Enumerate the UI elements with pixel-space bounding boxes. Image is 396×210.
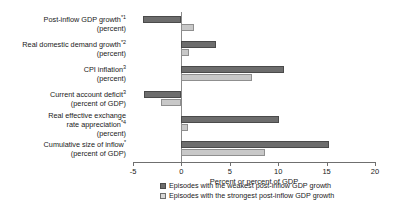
x-tick-label-5: 5	[228, 167, 232, 176]
bar-weakest-0	[143, 16, 182, 23]
legend-item-strongest[interactable]: Episodes with the strongest post-inflow …	[160, 191, 334, 201]
x-tick-0	[181, 162, 182, 166]
bar-weakest-3	[144, 91, 182, 98]
bar-strongest-1	[181, 49, 189, 56]
x-tick-5	[230, 162, 231, 166]
bar-strongest-0	[181, 24, 194, 31]
category-label-5: Cumulative size of inflow*(percent of GD…	[0, 140, 126, 159]
bar-weakest-2	[181, 66, 284, 73]
category-divider-tick	[181, 12, 182, 15]
x-tick-15	[327, 162, 328, 166]
category-label-1: Real domestic demand growth*2(percent)	[0, 40, 126, 59]
category-label-2: CPI inflation3(percent)	[0, 65, 126, 84]
legend-label-weakest: Episodes with the weakest post-inflow GD…	[169, 181, 331, 191]
category-label-3: Current account deficit3(percent of GDP)	[0, 90, 126, 109]
chart-legend: Episodes with the weakest post-inflow GD…	[160, 181, 334, 201]
category-divider-tick	[181, 37, 182, 40]
x-axis-line	[133, 162, 375, 163]
category-label-0: Post-inflow GDP growth*1(percent)	[0, 15, 126, 34]
plot-area: -505101520 Percent or percent of GDP	[133, 12, 375, 162]
category-label-4: Real effective exchangerate appreciation…	[0, 111, 126, 139]
category-axis-labels: Post-inflow GDP growth*1(percent)Real do…	[0, 12, 130, 162]
legend-item-weakest[interactable]: Episodes with the weakest post-inflow GD…	[160, 181, 334, 191]
x-tick-20	[375, 162, 376, 166]
x-tick-label-0: 0	[179, 167, 183, 176]
legend-label-strongest: Episodes with the strongest post-inflow …	[169, 191, 334, 201]
chart-container: Post-inflow GDP growth*1(percent)Real do…	[0, 0, 396, 210]
bar-weakest-1	[181, 41, 216, 48]
x-tick--5	[133, 162, 134, 166]
x-tick-label-15: 15	[322, 167, 330, 176]
legend-swatch-weakest-icon	[160, 183, 166, 189]
category-divider-tick	[181, 137, 182, 140]
x-tick-10	[278, 162, 279, 166]
bar-strongest-4	[181, 124, 188, 131]
category-divider-tick	[181, 87, 182, 90]
x-tick-label-20: 20	[371, 167, 379, 176]
category-divider-tick	[181, 112, 182, 115]
bar-strongest-3	[161, 99, 181, 106]
x-tick-label-10: 10	[274, 167, 282, 176]
bar-strongest-5	[181, 149, 264, 156]
bar-weakest-4	[181, 116, 279, 123]
legend-swatch-strongest-icon	[160, 193, 166, 199]
x-tick-label--5: -5	[130, 167, 137, 176]
bar-strongest-2	[181, 74, 252, 81]
bar-weakest-5	[181, 141, 329, 148]
category-divider-tick	[181, 62, 182, 65]
